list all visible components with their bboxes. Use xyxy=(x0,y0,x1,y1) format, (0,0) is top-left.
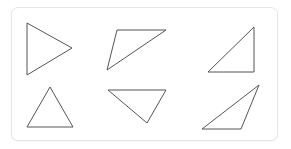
triangle-5 xyxy=(108,90,166,123)
triangles-canvas xyxy=(0,0,291,149)
triangle-4 xyxy=(27,87,73,127)
triangle-1 xyxy=(27,23,72,75)
figure-stage xyxy=(0,0,291,149)
triangle-2 xyxy=(107,30,166,70)
triangle-3 xyxy=(208,27,254,72)
triangle-6 xyxy=(202,85,259,129)
